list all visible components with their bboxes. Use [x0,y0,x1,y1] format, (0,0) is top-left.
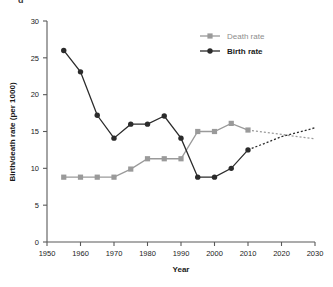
data-point [78,175,83,180]
projection-line [248,128,315,150]
x-tick-label: 1960 [72,249,89,258]
legend-label: Birth rate [227,47,263,56]
chart-axes [47,21,315,242]
y-tick-label: 30 [31,17,39,26]
x-tick-label: 1990 [173,249,190,258]
data-point [245,147,250,152]
y-tick-label: 20 [31,90,39,99]
legend-item-death-rate[interactable]: Death rate [200,32,265,41]
y-tick-label: 15 [31,127,39,136]
y-tick-label: 0 [35,238,39,247]
x-axis-title: Year [173,265,190,274]
series-death-rate [61,121,315,180]
series-birth-rate [61,48,315,180]
x-tick-label: 2010 [240,249,257,258]
x-tick-label: 2000 [206,249,223,258]
data-point [61,175,66,180]
data-point [145,156,150,161]
data-point [229,121,234,126]
y-tick-label: 25 [31,54,39,63]
figure-label-fragment: g [18,0,24,3]
series-line [64,123,248,177]
data-point [78,69,83,74]
data-point [229,166,234,171]
data-point [162,113,167,118]
data-point [128,166,133,171]
legend-marker [207,33,212,38]
data-point [95,175,100,180]
chart-figure: g 051015202530 1950196019701980199020002… [0,0,333,287]
data-point [111,135,116,140]
legend-marker [207,48,212,53]
data-point [162,156,167,161]
data-point [195,174,200,179]
data-series-layer [61,48,315,180]
x-tick-label: 1970 [106,249,123,258]
data-point [245,127,250,132]
birth-death-rate-line-chart: 051015202530 195019601970198019902000201… [0,0,333,287]
legend-item-birth-rate[interactable]: Birth rate [200,47,263,56]
y-axis-title: Birth/death rate (per 1000) [8,82,17,181]
data-point [61,48,66,53]
x-tick-label: 1980 [139,249,156,258]
data-point [145,121,150,126]
data-point [212,174,217,179]
y-tick-label: 10 [31,164,39,173]
chart-legend: Death rateBirth rate [200,32,265,56]
projection-line [248,130,315,139]
data-point [178,135,183,140]
data-point [95,113,100,118]
data-point [212,129,217,134]
data-point [195,129,200,134]
y-axis-ticks: 051015202530 [31,17,47,247]
y-tick-label: 5 [35,201,39,210]
x-tick-label: 1950 [39,249,56,258]
x-axis-ticks: 195019601970198019902000201020202030 [39,242,324,258]
data-point [128,121,133,126]
x-tick-label: 2030 [307,249,324,258]
data-point [178,156,183,161]
data-point [111,175,116,180]
x-tick-label: 2020 [273,249,290,258]
legend-label: Death rate [227,32,265,41]
